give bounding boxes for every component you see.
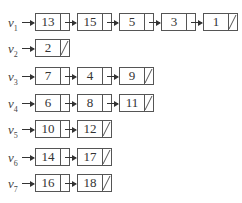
node-value: 15: [78, 14, 103, 30]
vertex-label: v6: [8, 150, 18, 168]
vertex-label: v1: [8, 15, 18, 33]
list-node: 12: [77, 120, 112, 138]
list-node: 9: [119, 67, 154, 85]
head-pointer-arrow-icon: [22, 22, 34, 23]
null-pointer-icon: [144, 95, 153, 111]
list-row-v2: v22: [0, 39, 242, 59]
node-value: 3: [162, 14, 187, 30]
list-node: 18: [77, 174, 112, 192]
next-pointer-arrow-icon: [107, 22, 118, 23]
null-pointer-icon: [144, 68, 153, 84]
list-row-v5: v51012: [0, 120, 242, 140]
list-row-v4: v46811: [0, 94, 242, 114]
null-pointer-icon: [102, 121, 111, 137]
vertex-label: v4: [8, 96, 18, 114]
next-pointer-arrow-icon: [191, 22, 202, 23]
next-pointer-arrow-icon: [107, 76, 118, 77]
node-value: 2: [36, 40, 61, 56]
next-pointer-arrow-icon: [65, 76, 76, 77]
next-pointer-arrow-icon: [65, 129, 76, 130]
list-row-v3: v3749: [0, 67, 242, 87]
node-value: 12: [78, 121, 103, 137]
list-row-v7: v71618: [0, 174, 242, 194]
head-pointer-arrow-icon: [22, 48, 34, 49]
node-value: 6: [36, 95, 61, 111]
null-pointer-icon: [102, 149, 111, 165]
node-value: 4: [78, 68, 103, 84]
vertex-label: v3: [8, 69, 18, 87]
adjacency-list-diagram: v11315531v22v3749v46811v51012v61417v7161…: [0, 0, 242, 203]
node-value: 17: [78, 149, 103, 165]
next-pointer-arrow-icon: [65, 22, 76, 23]
node-value: 1: [204, 14, 229, 30]
node-value: 5: [120, 14, 145, 30]
node-value: 7: [36, 68, 61, 84]
head-pointer-arrow-icon: [22, 157, 34, 158]
node-value: 13: [36, 14, 61, 30]
node-value: 10: [36, 121, 61, 137]
node-value: 11: [120, 95, 145, 111]
list-node: 17: [77, 148, 112, 166]
list-node: 11: [119, 94, 154, 112]
next-pointer-arrow-icon: [149, 22, 160, 23]
null-pointer-icon: [60, 40, 69, 56]
node-value: 8: [78, 95, 103, 111]
node-value: 14: [36, 149, 61, 165]
list-node: 1: [203, 13, 238, 31]
list-row-v6: v61417: [0, 148, 242, 168]
next-pointer-arrow-icon: [107, 103, 118, 104]
vertex-label: v7: [8, 176, 18, 194]
next-pointer-arrow-icon: [65, 103, 76, 104]
next-pointer-arrow-icon: [65, 183, 76, 184]
vertex-label: v2: [8, 41, 18, 59]
node-value: 9: [120, 68, 145, 84]
head-pointer-arrow-icon: [22, 183, 34, 184]
head-pointer-arrow-icon: [22, 76, 34, 77]
vertex-label: v5: [8, 122, 18, 140]
list-row-v1: v11315531: [0, 13, 242, 33]
head-pointer-arrow-icon: [22, 103, 34, 104]
head-pointer-arrow-icon: [22, 129, 34, 130]
next-pointer-arrow-icon: [65, 157, 76, 158]
node-value: 16: [36, 175, 61, 191]
null-pointer-icon: [102, 175, 111, 191]
node-value: 18: [78, 175, 103, 191]
null-pointer-icon: [228, 14, 237, 30]
list-node: 2: [35, 39, 70, 57]
